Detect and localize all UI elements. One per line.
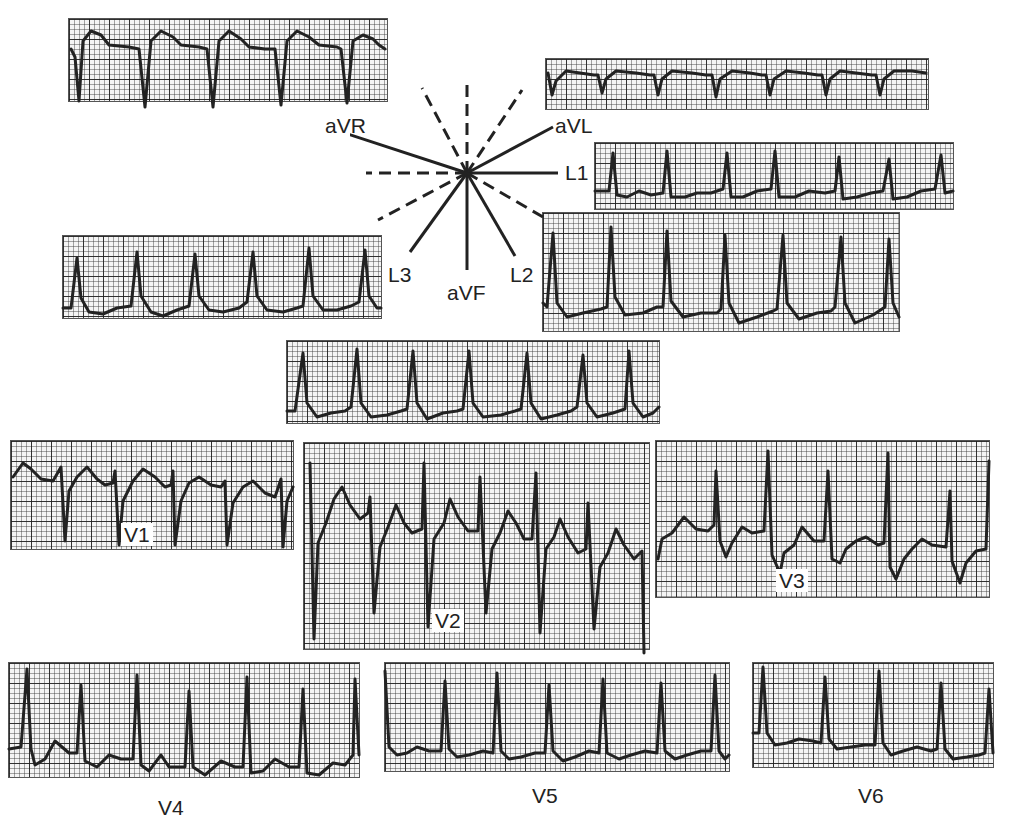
axis-label-avf: aVF [447,282,486,303]
ecg-trace-v6 [753,663,993,767]
ecg-trace-l3 [63,236,381,318]
ecg-strip-v4 [8,662,360,778]
ecg-strip-v3: V3 [655,440,990,598]
axis-label-avr: aVR [325,115,366,136]
ecg-trace-avf [287,341,659,423]
axis-line-dashed-neg60 [467,90,522,173]
lead-label-v3: V3 [776,569,808,592]
axis-line-avl [467,127,553,173]
lead-label-v5: V5 [532,785,558,806]
ecg-trace-avr [69,19,387,101]
ecg-trace-v4 [9,663,359,777]
ecg-trace-v3 [656,441,989,597]
ecg-strip-avr [68,18,388,102]
lead-label-v6: V6 [858,785,884,806]
ecg-strip-v6 [752,662,994,768]
ecg-trace-avl [546,59,928,109]
ecg-strip-v1: V1 [10,440,294,550]
axis-line-avr [350,125,467,173]
ecg-strip-l3 [62,235,382,319]
axis-label-avl: aVL [555,115,592,136]
axis-label-l1: L1 [565,162,588,183]
lead-label-v4: V4 [158,797,184,818]
axis-label-l3: L3 [388,264,411,285]
axis-label-l2: L2 [510,264,533,285]
ecg-strip-l1 [594,142,954,210]
lead-label-v1: V1 [121,523,153,546]
axis-line-l3 [410,173,467,252]
axis-line-dashed-150 [378,173,467,220]
lead-label-v2: V2 [432,609,464,632]
ecg-trace-l1 [595,143,953,209]
ecg-strip-v2: V2 [303,442,650,650]
ecg-trace-v2 [304,443,649,649]
ecg-trace-v5 [385,663,729,771]
ecg-strip-avl [545,58,929,110]
ecg-strip-avf [286,340,660,424]
ecg-strip-v5 [384,662,730,772]
